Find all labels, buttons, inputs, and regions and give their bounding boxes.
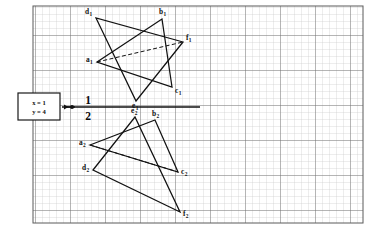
diagram-canvas: a1b1c1d1e1f1a2b2c2d2e2f2 1 2 x = 1 y = 4 (0, 0, 378, 233)
plane-number-1: 1 (85, 94, 91, 106)
plane-number-2: 2 (85, 110, 91, 122)
callout-x-value: x = 1 (32, 99, 46, 106)
callout-y-value: y = 4 (32, 108, 46, 115)
coordinates-callout-box: x = 1 y = 4 (18, 93, 60, 120)
graph-paper-grid (33, 6, 363, 223)
reference-point-dot (70, 105, 74, 109)
geometry-figure: a1b1c1d1e1f1a2b2c2d2e2f2 1 2 x = 1 y = 4 (0, 0, 378, 233)
